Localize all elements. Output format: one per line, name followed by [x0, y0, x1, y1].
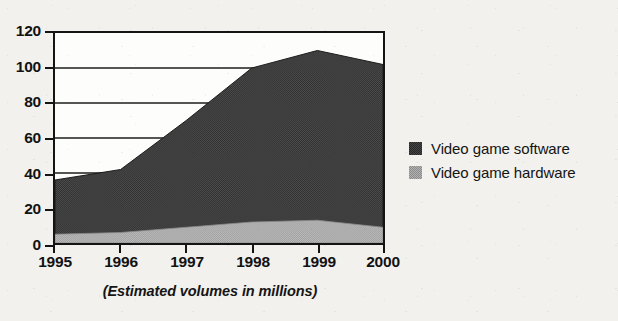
y-axis: 120 100 80 60 40 20 0 — [0, 21, 41, 255]
legend-item-hardware: Video game hardware — [409, 160, 576, 184]
x-axis-tick — [383, 245, 385, 253]
x-axis-label-1997: 1997 — [152, 253, 222, 271]
legend-swatch-icon-software — [409, 142, 422, 155]
y-axis-tick-label: 120 — [0, 21, 41, 41]
chart-legend: Video game software Video game hardware — [409, 136, 576, 184]
legend-label-software: Video game software — [431, 140, 570, 157]
x-axis-tick — [119, 245, 121, 253]
legend-swatch-icon-hardware — [409, 166, 422, 179]
y-axis-tick-label: 20 — [0, 199, 41, 219]
chart-figure: 120 100 80 60 40 20 0 — [0, 0, 618, 321]
y-axis-tick-label: 60 — [0, 128, 41, 148]
area-series-software — [55, 50, 383, 243]
y-axis-tick-label: 0 — [0, 235, 41, 255]
legend-item-software: Video game software — [409, 136, 576, 160]
chart-caption: (Estimated volumes in millions) — [0, 283, 420, 299]
x-axis-label-1999: 1999 — [284, 253, 354, 271]
plot-area — [53, 31, 385, 245]
x-axis-tick — [252, 245, 254, 253]
x-axis-label-1998: 1998 — [218, 253, 288, 271]
x-axis-tick — [53, 245, 55, 253]
x-axis-tick — [318, 245, 320, 253]
y-axis-tick-label: 100 — [0, 57, 41, 77]
x-axis-label-1996: 1996 — [86, 253, 156, 271]
x-axis-label-1995: 1995 — [20, 253, 90, 271]
legend-label-hardware: Video game hardware — [431, 164, 576, 181]
y-axis-tick-label: 40 — [0, 164, 41, 184]
stacked-area-plot — [55, 33, 383, 243]
y-axis-tick-label: 80 — [0, 92, 41, 112]
x-axis-label-2000: 2000 — [348, 253, 418, 271]
x-axis-tick — [185, 245, 187, 253]
